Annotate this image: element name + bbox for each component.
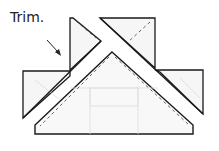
bottom-triangle — [35, 52, 193, 134]
arrow-icon — [47, 40, 61, 56]
origami-diagram — [0, 0, 219, 151]
top-left-flap — [70, 18, 101, 70]
